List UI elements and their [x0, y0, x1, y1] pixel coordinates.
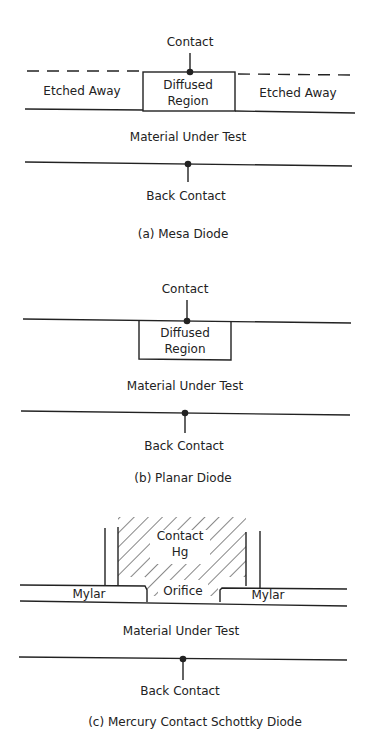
diffused-label: Diffused [163, 78, 213, 92]
back-contact-label: Back Contact [146, 189, 226, 203]
region-label: Region [164, 342, 205, 356]
back-contact-label: Back Contact [144, 439, 224, 453]
mylar-right-label: Mylar [251, 588, 284, 602]
hg-label: Hg [172, 545, 189, 559]
material-under-test-label: Material Under Test [130, 130, 246, 144]
contact-label: Contact [157, 529, 204, 543]
etched-away-right-label: Etched Away [259, 86, 336, 100]
mercury-schottky-caption: (c) Mercury Contact Schottky Diode [88, 715, 302, 729]
material-under-test-label: Material Under Test [123, 624, 239, 638]
mylar-left-label: Mylar [72, 587, 105, 601]
diffused-label: Diffused [160, 326, 210, 340]
mesa-diode-caption: (a) Mesa Diode [138, 227, 229, 241]
etched-away-left-label: Etched Away [43, 84, 120, 98]
material-under-test-label: Material Under Test [127, 379, 243, 393]
contact-label: Contact [162, 282, 209, 296]
back-contact-label: Back Contact [140, 684, 220, 698]
orifice-label: Orifice [163, 584, 202, 598]
contact-label: Contact [167, 35, 214, 49]
planar-diode-caption: (b) Planar Diode [134, 471, 231, 485]
region-label: Region [167, 94, 208, 108]
